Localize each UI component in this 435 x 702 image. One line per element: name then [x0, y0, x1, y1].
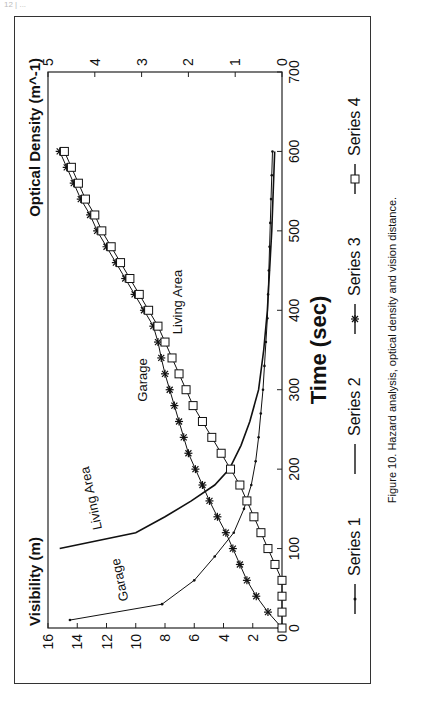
marker-square [60, 147, 68, 155]
legend-label-1: Series 1 [346, 517, 363, 576]
legend-marker-dot [354, 598, 357, 601]
marker-square [250, 513, 258, 521]
series-line-1 [70, 151, 273, 620]
y2-axis-label: Optical Density (m^-1) [26, 58, 43, 217]
marker-dot [161, 603, 164, 606]
marker-square [175, 370, 183, 378]
marker-dot [270, 174, 273, 177]
marker-square [227, 465, 235, 473]
marker-square [243, 497, 251, 505]
legend-label-4: Series 4 [346, 97, 363, 156]
marker-square [198, 417, 206, 425]
y-tick-label: 4 [216, 634, 232, 642]
page-header-note: 12 | ... [4, 0, 26, 9]
y-tick-label: 0 [274, 634, 290, 642]
y-tick-label: 8 [157, 634, 173, 642]
x-tick-label: 200 [286, 457, 302, 481]
marker-square [74, 179, 82, 187]
marker-square [154, 322, 162, 330]
figure-caption: Figure 10. Hazard analysis, optical dens… [386, 16, 398, 684]
y-tick-label: 16 [40, 634, 56, 650]
marker-square [278, 592, 286, 600]
marker-square [67, 163, 75, 171]
marker-dot [263, 365, 266, 368]
legend-label-3: Series 3 [346, 237, 363, 296]
y2-tick-label: 1 [227, 58, 243, 66]
marker-dot [213, 555, 216, 558]
marker-dot [262, 388, 265, 391]
marker-square [91, 211, 99, 219]
y-tick-label: 12 [99, 634, 115, 650]
marker-dot [250, 484, 253, 487]
marker-square [264, 545, 272, 553]
y-tick-label: 14 [69, 634, 85, 650]
marker-dot [232, 531, 235, 534]
y-axis-label: Visibility (m) [26, 537, 43, 626]
marker-dot [257, 436, 260, 439]
chart-plot: 0100200300400500600700024681012141601234… [14, 16, 374, 684]
y2-tick-label: 2 [180, 58, 196, 66]
marker-square [161, 338, 169, 346]
marker-square [107, 243, 115, 251]
y-tick-label: 6 [186, 634, 202, 642]
marker-square [257, 529, 265, 537]
plot-area [48, 72, 282, 628]
x-axis-label: Time (sec) [306, 296, 331, 404]
y2-tick-label: 0 [274, 58, 290, 66]
marker-square [145, 306, 153, 314]
marker-square [189, 402, 197, 410]
y-tick-label: 10 [128, 634, 144, 650]
marker-square [217, 449, 225, 457]
annotation-label: Garage [135, 358, 150, 401]
marker-dot [269, 222, 272, 225]
annotation-label: Living Area [170, 269, 185, 334]
marker-square [278, 576, 286, 584]
marker-square [168, 354, 176, 362]
marker-square [236, 481, 244, 489]
marker-square [81, 195, 89, 203]
marker-square [98, 227, 106, 235]
chart-figure: 0100200300400500600700024681012141601234… [14, 16, 414, 684]
marker-dot [271, 150, 274, 153]
marker-square [126, 275, 134, 283]
marker-dot [259, 412, 262, 415]
marker-square [208, 433, 216, 441]
marker-dot [254, 460, 257, 463]
y2-tick-label: 4 [87, 58, 103, 66]
marker-dot [243, 508, 246, 511]
marker-square [117, 259, 125, 267]
x-tick-label: 100 [286, 537, 302, 561]
x-tick-label: 300 [286, 378, 302, 402]
x-tick-label: 600 [286, 140, 302, 164]
marker-square [135, 290, 143, 298]
x-tick-label: 0 [286, 624, 302, 632]
y-tick-label: 2 [245, 634, 261, 642]
marker-square [278, 608, 286, 616]
marker-dot [193, 579, 196, 582]
marker-dot [270, 198, 273, 201]
marker-square [182, 386, 190, 394]
y2-tick-label: 3 [134, 58, 150, 66]
annotation-label: Garage [108, 557, 132, 603]
marker-square [278, 624, 286, 632]
legend-marker-square [351, 175, 359, 183]
annotation-label: Living Area [77, 464, 105, 531]
x-tick-label: 500 [286, 219, 302, 243]
legend-label-2: Series 2 [346, 377, 363, 436]
marker-dot [69, 619, 72, 622]
marker-square [271, 560, 279, 568]
x-tick-label: 400 [286, 298, 302, 322]
